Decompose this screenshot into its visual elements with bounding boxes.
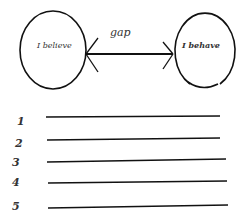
gap-label: gap: [110, 26, 131, 39]
line-1: 1: [17, 115, 220, 128]
line-number: 2: [14, 137, 23, 150]
behave-circle: I behave: [175, 13, 235, 87]
line-5: 5: [12, 200, 228, 213]
line-2: 2: [14, 137, 220, 150]
believe-circle: I believe: [20, 11, 86, 89]
line-number: 3: [12, 156, 20, 169]
line-3: 3: [12, 156, 226, 169]
behave-label: I behave: [181, 40, 220, 50]
line-number: 5: [12, 200, 20, 213]
line-4: 4: [12, 176, 227, 189]
line-number: 1: [17, 115, 25, 128]
believe-label: I believe: [36, 41, 72, 50]
gap-diagram: I believe I behave gap 1 2 3 4 5: [0, 0, 241, 224]
line-number: 4: [12, 176, 20, 189]
gap-arrow: gap: [86, 26, 173, 72]
